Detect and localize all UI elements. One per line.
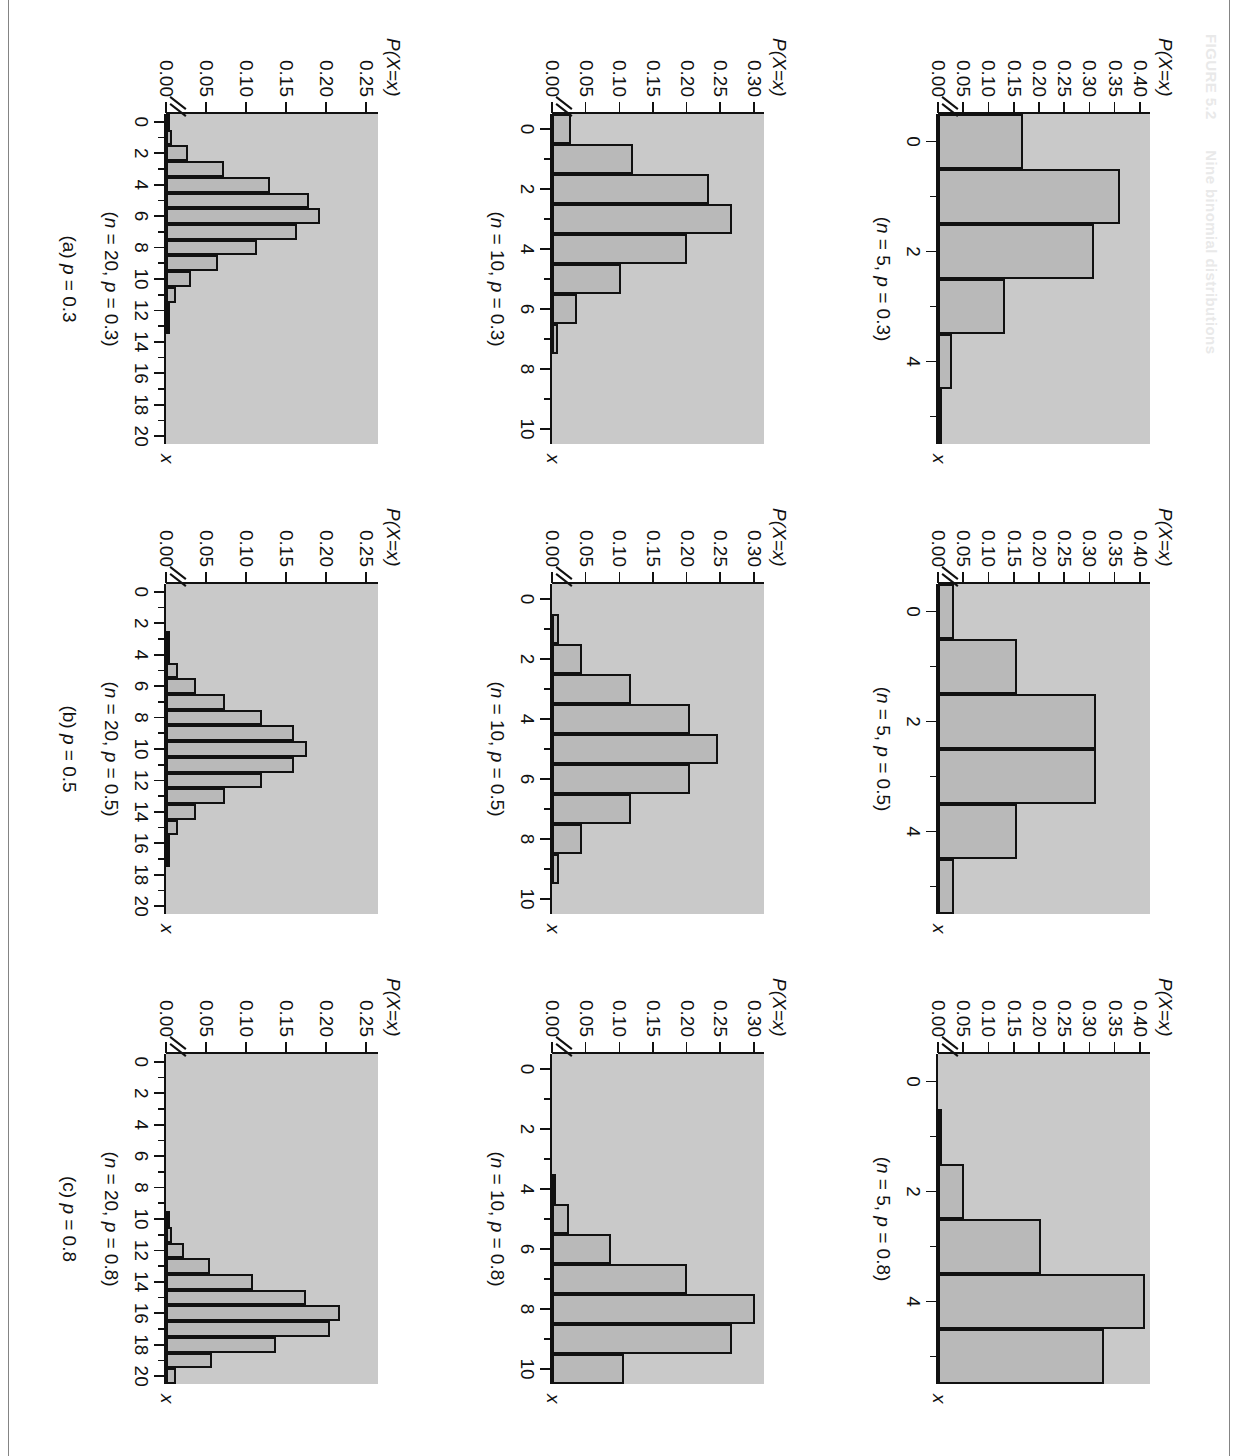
chart-panel-n20-p03: P(X=x)0.000.050.100.150.200.250246810121… xyxy=(30,28,412,498)
x-tick-mark xyxy=(926,611,936,613)
histogram-bar xyxy=(166,1337,276,1353)
y-tick-mark xyxy=(719,1042,721,1053)
y-tick-mark xyxy=(1139,572,1141,583)
y-tick-mark xyxy=(962,572,964,583)
x-tick-label: 2 xyxy=(130,618,152,629)
histogram-bar xyxy=(552,764,690,794)
x-tick-mark xyxy=(154,1187,164,1189)
x-tick-mark xyxy=(926,251,936,253)
x-tick-mark xyxy=(926,1191,936,1193)
y-axis-title: P(X=x) xyxy=(1154,508,1176,567)
histogram-bar xyxy=(552,144,633,174)
x-tick-mark xyxy=(158,1108,164,1110)
x-tick-mark xyxy=(544,338,550,340)
x-tick-mark xyxy=(154,1155,164,1157)
x-tick-mark xyxy=(158,827,164,829)
histogram-bar xyxy=(166,647,170,663)
x-tick-mark xyxy=(154,748,164,750)
histogram-bar xyxy=(166,130,172,146)
x-tick-mark xyxy=(926,1301,936,1303)
y-tick-mark xyxy=(1089,1042,1091,1053)
x-tick-mark xyxy=(926,1081,936,1083)
histogram-bar xyxy=(166,208,320,224)
y-tick-mark xyxy=(619,1042,621,1053)
y-tick-mark xyxy=(652,102,654,113)
histogram-bar xyxy=(166,240,257,256)
plot-area xyxy=(552,584,764,914)
y-tick-label: 0.35 xyxy=(1104,968,1126,1037)
y-tick-mark xyxy=(585,102,587,113)
y-tick-label: 0.20 xyxy=(315,968,337,1037)
x-tick-mark xyxy=(158,420,164,422)
y-tick-label: 0.20 xyxy=(315,28,337,97)
histogram-bar xyxy=(166,145,188,161)
y-tick-label: 0.10 xyxy=(235,968,257,1037)
y-tick-label: 0.05 xyxy=(952,498,974,567)
x-tick-mark xyxy=(154,121,164,123)
x-tick-label: 2 xyxy=(516,1124,538,1135)
x-tick-mark xyxy=(158,1297,164,1299)
x-tick-mark xyxy=(540,428,550,430)
x-tick-mark xyxy=(154,1124,164,1126)
y-tick-mark xyxy=(1114,1042,1116,1053)
y-tick-mark xyxy=(165,1042,167,1053)
x-tick-mark xyxy=(154,780,164,782)
histogram-bar xyxy=(552,794,631,824)
x-tick-label: 20 xyxy=(130,896,152,917)
figure-caption: FIGURE 5.2 Nine binomial distributions xyxy=(1203,34,1220,354)
histogram-bar xyxy=(938,389,942,444)
column-caption-2: (c) p = 0.8 xyxy=(58,1054,80,1384)
x-axis-line xyxy=(164,1054,166,1384)
histogram-bar xyxy=(166,318,170,334)
y-tick-mark xyxy=(285,572,287,583)
x-tick-label: 4 xyxy=(130,649,152,660)
column-caption-1: (b) p = 0.5 xyxy=(58,584,80,914)
y-tick-mark xyxy=(962,1042,964,1053)
x-tick-mark xyxy=(544,1338,550,1340)
x-tick-mark xyxy=(154,341,164,343)
histogram-bar xyxy=(166,287,176,303)
y-tick-mark xyxy=(652,572,654,583)
x-tick-label: 12 xyxy=(130,300,152,321)
y-axis-title: P(X=x) xyxy=(768,978,790,1037)
plot-area xyxy=(552,1054,764,1384)
y-tick-label: 0.15 xyxy=(275,498,297,567)
y-tick-mark xyxy=(652,1042,654,1053)
y-tick-label: 0.20 xyxy=(676,498,698,567)
x-tick-mark xyxy=(926,831,936,833)
x-tick-mark xyxy=(930,666,936,668)
histogram-bar xyxy=(552,644,582,674)
chart-panel-n20-p05: P(X=x)0.000.050.100.150.200.250246810121… xyxy=(30,498,412,968)
y-tick-mark xyxy=(937,102,939,113)
x-tick-label: 2 xyxy=(902,716,924,727)
y-axis-title: P(X=x) xyxy=(382,508,404,567)
y-tick-mark xyxy=(1038,102,1040,113)
y-tick-mark xyxy=(285,1042,287,1053)
y-axis-title: P(X=x) xyxy=(1154,978,1176,1037)
y-tick-mark xyxy=(245,572,247,583)
x-tick-label: 10 xyxy=(516,418,538,439)
x-tick-mark xyxy=(540,128,550,130)
x-tick-label: 16 xyxy=(130,833,152,854)
x-tick-mark xyxy=(926,361,936,363)
x-tick-label: 0 xyxy=(902,136,924,147)
histogram-bar xyxy=(938,749,1096,804)
x-tick-mark xyxy=(158,795,164,797)
x-tick-mark xyxy=(158,231,164,233)
x-tick-mark xyxy=(540,838,550,840)
histogram-bar xyxy=(552,1204,569,1234)
x-tick-mark xyxy=(158,325,164,327)
x-tick-label: 2 xyxy=(902,1186,924,1197)
y-tick-label: 0.00 xyxy=(541,968,563,1037)
x-tick-label: 4 xyxy=(902,356,924,367)
y-tick-mark xyxy=(365,102,367,113)
x-tick-label: 8 xyxy=(130,1182,152,1193)
x-tick-label: 20 xyxy=(130,426,152,447)
x-axis-title: x xyxy=(156,454,178,464)
y-tick-label: 0.25 xyxy=(1053,968,1075,1037)
y-axis-line xyxy=(552,112,764,114)
x-tick-mark xyxy=(544,1098,550,1100)
histogram-bar xyxy=(552,734,718,764)
histogram-bar xyxy=(552,294,577,324)
histogram-bar xyxy=(166,804,196,820)
